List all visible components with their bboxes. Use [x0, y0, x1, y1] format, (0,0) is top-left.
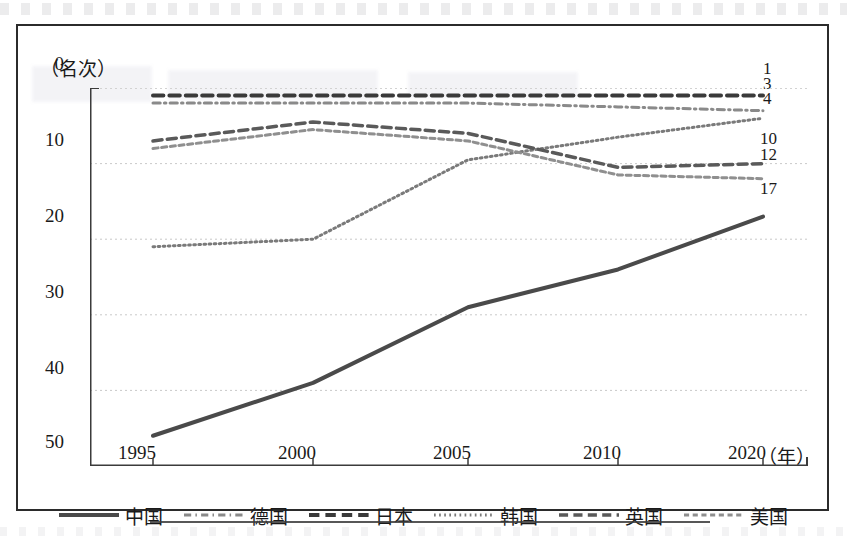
legend-label: 中国	[125, 502, 163, 529]
legend-label: 英国	[625, 502, 663, 529]
scan-artifact-rule	[150, 521, 710, 523]
ytick-label-50: 50	[24, 431, 64, 453]
scan-artifact-bottom	[0, 527, 847, 536]
legend-label: 韩国	[500, 502, 538, 529]
legend-item[interactable]: 德国	[183, 502, 288, 529]
legend-swatch-icon	[683, 508, 745, 522]
legend-label: 德国	[250, 502, 288, 529]
legend-swatch-icon	[308, 508, 370, 522]
legend-item[interactable]: 英国	[558, 502, 663, 529]
series-line	[153, 103, 763, 111]
ytick-label-40: 40	[24, 357, 64, 379]
legend-swatch-icon	[433, 508, 495, 522]
ytick-label-10: 10	[24, 129, 64, 151]
figure-frame: （名次） 0 10 20 30 40 50 1995 2000 2005 201…	[16, 24, 829, 511]
legend-item[interactable]: 韩国	[433, 502, 538, 529]
gridlines	[90, 89, 808, 467]
ytick-label-30: 30	[24, 281, 64, 303]
legend-item[interactable]: 美国	[683, 502, 788, 529]
ytick-label-0: 0	[24, 53, 64, 75]
chart-legend: 中国德国日本韩国英国美国	[58, 500, 758, 530]
plot-area	[90, 88, 808, 466]
series-line	[153, 217, 763, 436]
data-series-group	[153, 96, 763, 436]
chart-svg	[90, 88, 808, 466]
legend-label: 美国	[750, 502, 788, 529]
scan-artifact-top	[0, 3, 847, 15]
legend-label: 日本	[375, 502, 413, 529]
legend-swatch-icon	[183, 508, 245, 522]
legend-item[interactable]: 日本	[308, 502, 413, 529]
legend-swatch-icon	[558, 508, 620, 522]
legend-item[interactable]: 中国	[58, 502, 163, 529]
legend-swatch-icon	[58, 508, 120, 522]
ytick-label-20: 20	[24, 205, 64, 227]
series-line	[153, 130, 763, 179]
